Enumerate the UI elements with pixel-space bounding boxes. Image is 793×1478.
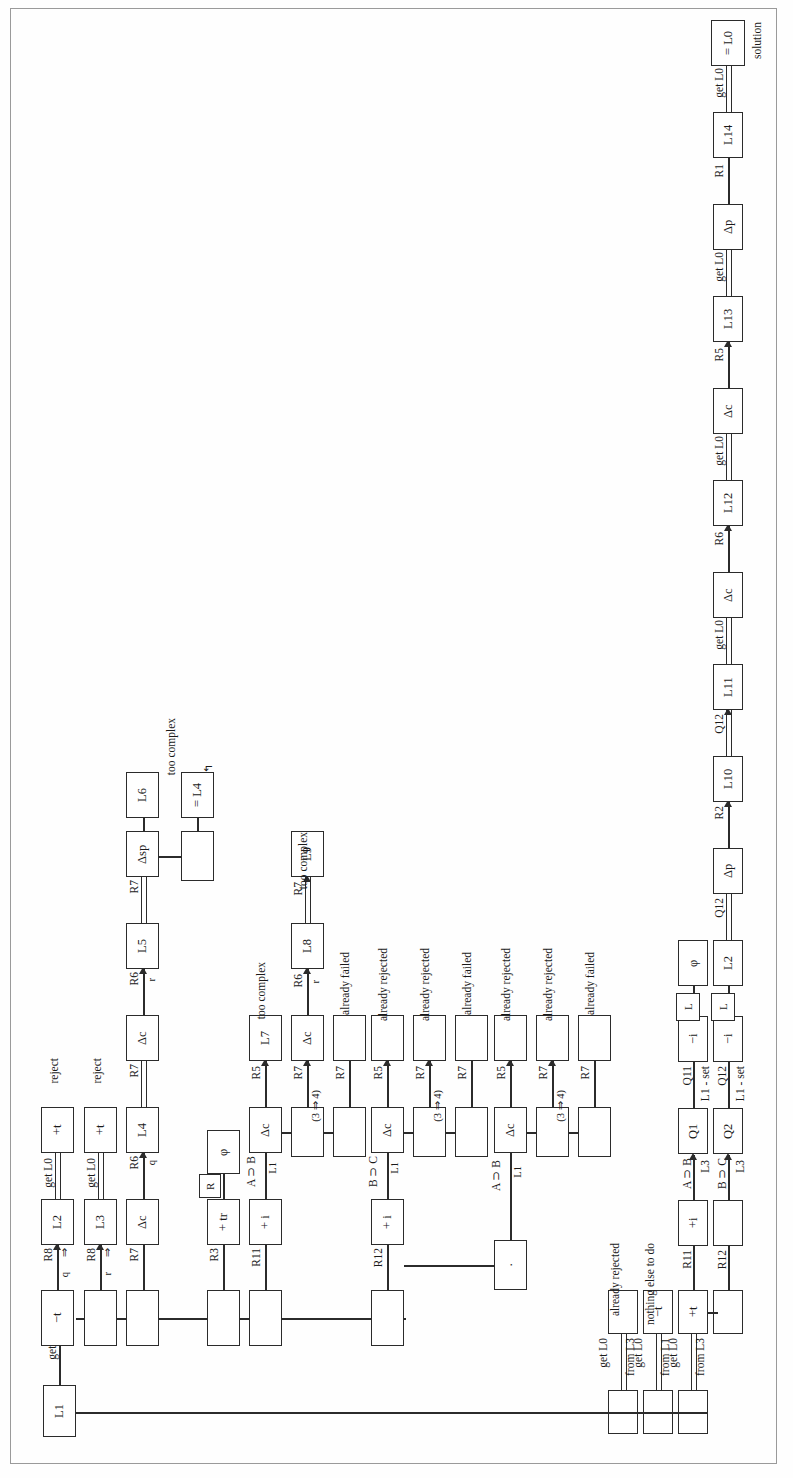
- edge-g1b2-up: [349, 1061, 351, 1107]
- node-eq-L0[interactable]: = L0: [711, 20, 745, 66]
- label-r-3: r: [147, 978, 158, 982]
- label-L1-g1: L1: [268, 1162, 279, 1174]
- label-already-rejected-1: already rejected: [378, 948, 390, 1021]
- label-eqL4-tick: ↰: [204, 764, 215, 773]
- node-g2-b2[interactable]: [455, 1107, 488, 1157]
- node-g2-b1t[interactable]: [413, 1015, 446, 1061]
- edge-dp2-L14: [728, 158, 730, 204]
- node-L2-u[interactable]: L2: [41, 1199, 74, 1245]
- node-rank2-3[interactable]: +t: [678, 1290, 708, 1334]
- node-stub-d[interactable]: [207, 1290, 240, 1346]
- label-R5-g1: R5: [251, 1066, 263, 1079]
- edge-g2b2-up: [471, 1061, 473, 1107]
- label-R7-3: R7: [129, 1248, 141, 1261]
- label-reject-2: reject: [92, 1058, 104, 1084]
- node-L8u[interactable]: L8: [291, 923, 324, 969]
- node-Q2[interactable]: Q2: [713, 1108, 743, 1154]
- node-Q1[interactable]: Q1: [678, 1108, 708, 1154]
- label-L1set-1: L1 - set: [700, 1066, 712, 1101]
- label-Q12-chain2: Q12: [714, 714, 726, 734]
- node-dc-1u[interactable]: Δc: [126, 1199, 159, 1245]
- node-g1-b2[interactable]: [333, 1107, 366, 1157]
- node-g3-b0[interactable]: [494, 1015, 527, 1061]
- node-L5-u[interactable]: L5: [126, 923, 159, 969]
- edge-plusi1-dcg1: [265, 1153, 267, 1199]
- node-stub-g1[interactable]: [249, 1290, 282, 1346]
- label-note-b1: already rejected: [610, 1243, 622, 1316]
- node-dc-g1b[interactable]: Δc: [291, 1015, 324, 1061]
- node-stub-negt[interactable]: −t: [41, 1290, 74, 1346]
- node-L14[interactable]: L14: [713, 112, 743, 158]
- node-L12[interactable]: L12: [713, 480, 743, 526]
- node-dsp-blank[interactable]: [181, 831, 214, 881]
- node-L-box-2[interactable]: L: [711, 993, 735, 1021]
- node-g3-dot[interactable]: ·: [494, 1240, 527, 1290]
- edge-g3b2-up: [594, 1061, 596, 1107]
- label-R6-3: R6: [129, 1156, 141, 1169]
- node-eq-L4u[interactable]: = L4: [181, 772, 214, 818]
- label-L3-bot-1: L3: [700, 1160, 712, 1173]
- node-phi-1u[interactable]: φ: [207, 1130, 240, 1174]
- node-L13[interactable]: L13: [713, 296, 743, 342]
- label-reject-1: reject: [49, 1058, 61, 1084]
- label-R5-chain: R5: [714, 348, 726, 361]
- node-neg-i-1[interactable]: −i: [678, 1016, 708, 1062]
- label-getL0-chain2: get L0: [714, 436, 726, 466]
- node-plust-2[interactable]: +t: [84, 1107, 117, 1153]
- label-solution: solution: [752, 22, 764, 59]
- node-dp-2[interactable]: Δp: [713, 204, 743, 250]
- node-dc-g3u[interactable]: Δc: [494, 1107, 527, 1153]
- node-g3-b1t[interactable]: [536, 1015, 569, 1061]
- node-plusi-1u[interactable]: + i: [249, 1199, 282, 1245]
- node-L1-root[interactable]: L1: [43, 1385, 76, 1437]
- node-plusi-2u[interactable]: + i: [371, 1199, 404, 1245]
- label-R6-g1b: R6: [293, 974, 305, 987]
- label-from-b3: from L3: [695, 1338, 707, 1376]
- edge-dcg2-b: [387, 1061, 389, 1107]
- node-plustr[interactable]: + tr: [207, 1199, 240, 1245]
- node-L6-u[interactable]: L6: [126, 772, 159, 818]
- node-g2-b0[interactable]: [371, 1015, 404, 1061]
- node-L11[interactable]: L11: [713, 664, 743, 710]
- edge-plusi2-dcg2: [387, 1153, 389, 1199]
- node-plust-1[interactable]: +t: [41, 1107, 74, 1153]
- edge-dsp-right: [159, 856, 181, 858]
- node-L2-bot[interactable]: L2: [713, 940, 743, 986]
- node-L-box-1[interactable]: L: [676, 993, 700, 1021]
- node-stub-c[interactable]: [126, 1290, 159, 1346]
- node-stub-g2[interactable]: [371, 1290, 404, 1346]
- node-plus-i-bot-2[interactable]: [713, 1200, 743, 1246]
- node-g3-b2[interactable]: [578, 1107, 611, 1157]
- node-L7u[interactable]: L7: [249, 1015, 282, 1061]
- edge-c-dc1: [143, 1245, 145, 1291]
- label-R12-bot: R12: [717, 1250, 729, 1269]
- node-stub-b[interactable]: [84, 1290, 117, 1346]
- node-dp-1[interactable]: Δp: [713, 848, 743, 894]
- edge-dcg1b-L8: [307, 969, 309, 1015]
- node-neg-i-2[interactable]: −i: [713, 1016, 743, 1062]
- node-L4-u[interactable]: L4: [126, 1107, 159, 1153]
- edge-L5-dsp: [141, 877, 147, 923]
- node-dc-2u[interactable]: Δc: [126, 1015, 159, 1061]
- node-g3-b2t[interactable]: [578, 1015, 611, 1061]
- label-R6-3c: R6: [129, 972, 141, 985]
- node-dc-g1u[interactable]: Δc: [249, 1107, 282, 1153]
- node-dc-g2u[interactable]: Δc: [371, 1107, 404, 1153]
- node-L10[interactable]: L10: [713, 756, 743, 802]
- node-dsp-u[interactable]: Δsp: [126, 831, 159, 877]
- node-g1-b3[interactable]: [333, 1015, 366, 1061]
- label-too-complex-1: too complex: [166, 718, 178, 775]
- node-L3-u[interactable]: L3: [84, 1199, 117, 1245]
- label-Q12-bot: Q12: [717, 1066, 729, 1086]
- label-getL0-chain4: get L0: [714, 68, 726, 98]
- node-g2-b2t[interactable]: [455, 1015, 488, 1061]
- label-R5-g2: R5: [373, 1066, 385, 1079]
- label-R7-3b: R7: [129, 1064, 141, 1077]
- label-dbl-q: ⇒: [60, 1248, 71, 1257]
- node-plus-i-bot-1[interactable]: +i: [678, 1200, 708, 1246]
- node-dc-r2[interactable]: Δc: [713, 388, 743, 434]
- node-dc-r1[interactable]: Δc: [713, 572, 743, 618]
- node-R-small[interactable]: R: [199, 1174, 221, 1198]
- node-phi-bot[interactable]: φ: [678, 940, 708, 986]
- label-getL0-1: get L0: [43, 1158, 55, 1188]
